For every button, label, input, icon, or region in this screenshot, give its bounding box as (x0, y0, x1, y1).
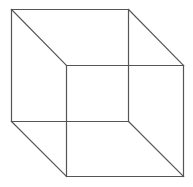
necker-cube-drawing (0, 0, 193, 187)
cube-figure (0, 0, 193, 187)
cube-edge-back-bottom-right-to-front-bottom-right (129, 122, 184, 177)
cube-edge-back-bottom-left-to-front-bottom-left (12, 122, 67, 177)
cube-edge-back-top-right-to-front-top-right (129, 10, 184, 66)
cube-edges (12, 10, 184, 177)
cube-edge-back-top-left-to-front-top-left (12, 10, 67, 66)
